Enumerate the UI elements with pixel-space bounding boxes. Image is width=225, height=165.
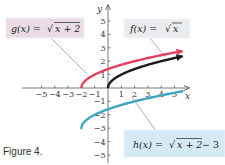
x-axis-label: x <box>185 91 190 101</box>
h-label-text: h(x) = <box>133 139 163 150</box>
h-suffix: − 3 <box>202 139 219 150</box>
y-tick-label: 4 <box>100 30 105 39</box>
x-tick-label: 2 <box>132 90 137 99</box>
y-tick-label: −5 <box>94 151 106 160</box>
y-tick-label: 3 <box>100 44 105 53</box>
g-label-box: g(x) = √ x + 2 <box>6 18 84 38</box>
x-tick-label: −2 <box>76 90 88 99</box>
y-tick-label: 2 <box>100 57 105 66</box>
figure-caption: Figure 4. <box>3 146 42 157</box>
g-leader-line <box>50 37 86 73</box>
h-radicand: x + 2 <box>177 139 202 150</box>
f-radicand: x <box>173 23 179 34</box>
f-label-text: f(x) = <box>129 23 157 34</box>
y-tick-label: −3 <box>94 124 106 133</box>
h-label-box: h(x) = √ x + 2 − 3 <box>124 130 225 157</box>
y-tick-label: 5 <box>100 17 105 26</box>
x-tick-label: −4 <box>49 90 61 99</box>
f-curve <box>108 56 182 88</box>
g-label-text: g(x) = <box>11 23 41 34</box>
y-axis-label: y <box>96 4 103 14</box>
leader-lines <box>50 37 165 131</box>
g-radical-sign: √ <box>47 23 54 34</box>
f-radical-sign: √ <box>165 23 172 34</box>
h-radical-sign: √ <box>169 139 176 150</box>
y-tick-label: −4 <box>94 138 106 147</box>
g-radicand: x + 2 <box>55 23 80 34</box>
y-tick-label: −1 <box>94 97 106 106</box>
x-tick-label: −3 <box>62 90 74 99</box>
x-tick-label: 1 <box>119 90 124 99</box>
f-label-box: f(x) = √ x <box>124 19 190 38</box>
x-tick-label: −5 <box>36 90 48 99</box>
figure-graph: −5−4−3−2−112345 −5−4−3−2−112345 x y g(x)… <box>0 0 225 165</box>
